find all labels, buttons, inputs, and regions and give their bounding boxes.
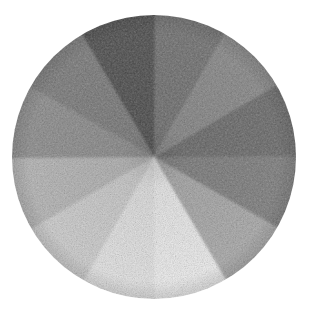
value-wheel: value 6 — mid grayvalue 5 — medium grayv… (0, 0, 311, 322)
artboard: value 6 — mid grayvalue 5 — medium grayv… (0, 0, 311, 322)
